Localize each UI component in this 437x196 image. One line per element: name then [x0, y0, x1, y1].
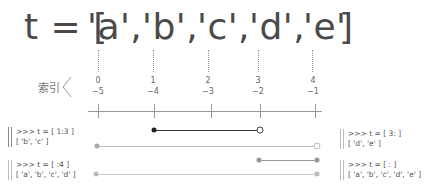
- axis-tick-2: [211, 104, 212, 118]
- index-neg-2: −3: [202, 87, 214, 96]
- dotted-guide-0: [98, 50, 99, 72]
- index-neg-1: −4: [147, 87, 159, 96]
- item-d: 'd',: [249, 6, 305, 47]
- axis-tick-0: [98, 104, 99, 118]
- index-pos-2: 2: [205, 76, 210, 85]
- slice-row2-line: [97, 146, 316, 147]
- code-block-slice-all: >>> t = [ : ] [ 'a', 'b', 'c', 'd', 'e' …: [340, 160, 421, 180]
- slice-row2-start-dot: [95, 144, 100, 149]
- index-pos-0: 0: [95, 76, 100, 85]
- index-neg-4: −1: [307, 87, 319, 96]
- slice-1-3-start-dot: [152, 128, 157, 133]
- item-c: 'c',: [197, 6, 250, 47]
- number-line-axis: [88, 111, 322, 112]
- slice-row3-end-dot: [315, 158, 320, 163]
- dotted-guide-4: [312, 50, 313, 72]
- slice-row4-end-dot: [315, 172, 320, 177]
- code-result: [ 'd', 'e' ]: [348, 139, 401, 149]
- code-line: >>> t = [ :4 ]: [16, 160, 76, 170]
- index-pos-1: 1: [150, 76, 155, 85]
- dotted-guide-1: [153, 50, 154, 72]
- slice-1-3-end-open-dot: [257, 127, 264, 134]
- slice-1-3-line: [154, 130, 260, 131]
- bracket-icon: [61, 76, 73, 98]
- code-line: >>> t = [ : ]: [348, 160, 421, 170]
- dotted-guide-2: [208, 50, 209, 72]
- title-suffix: ]: [339, 6, 354, 47]
- slice-row3-start-dot: [257, 158, 262, 163]
- axis-tick-3: [260, 104, 261, 118]
- code-block-slice-1-3: >>> t = [ 1:3 ] [ 'b', 'c' ]: [8, 127, 74, 147]
- code-line: >>> t = [ 1:3 ]: [16, 127, 74, 137]
- code-result: [ 'a', 'b', 'c', 'd', 'e' ]: [348, 170, 421, 180]
- slice-row4-line: [96, 174, 317, 175]
- code-result: [ 'a', 'b', 'c', 'd' ]: [16, 170, 76, 180]
- index-neg-0: −5: [92, 87, 104, 96]
- slice-row4-start-dot: [94, 172, 99, 177]
- index-pos-3: 3: [255, 76, 260, 85]
- code-result: [ 'b', 'c' ]: [16, 137, 74, 147]
- slice-row3-line: [259, 160, 316, 161]
- index-label: 索引: [38, 79, 60, 95]
- slice-row2-end-open-dot: [314, 143, 321, 150]
- item-b: 'b',: [142, 6, 198, 47]
- axis-tick-4: [315, 104, 316, 118]
- code-block-slice-3-end: >>> t = [ 3: ] [ 'd', 'e' ]: [340, 129, 401, 149]
- index-neg-3: −2: [252, 87, 264, 96]
- dotted-guide-3: [258, 50, 259, 72]
- item-a: 'a',: [87, 6, 142, 47]
- axis-tick-1: [154, 104, 155, 118]
- index-pos-4: 4: [310, 76, 315, 85]
- code-block-slice-start-4: >>> t = [ :4 ] [ 'a', 'b', 'c', 'd' ]: [8, 160, 76, 180]
- code-line: >>> t = [ 3: ]: [348, 129, 401, 139]
